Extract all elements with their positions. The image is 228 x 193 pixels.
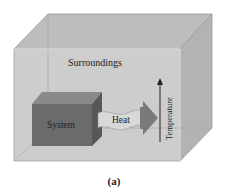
surroundings-top-face — [14, 14, 212, 49]
system-label: System — [47, 120, 76, 130]
temperature-label: Temperature — [164, 97, 174, 140]
figure-caption: (a) — [0, 175, 228, 187]
thermo-diagram: Surroundings System Heat Temperature — [0, 0, 228, 193]
surroundings-label: Surroundings — [68, 57, 122, 68]
heat-label: Heat — [112, 115, 130, 125]
system-top-face — [32, 92, 102, 104]
